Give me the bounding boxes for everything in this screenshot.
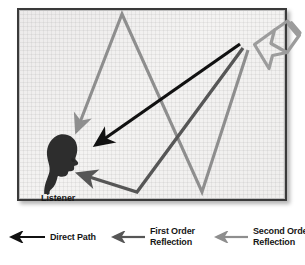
legend-second-order-label-line-1: Second Order — [253, 226, 305, 237]
room-diagram-frame: Listener — [17, 8, 287, 201]
loudspeaker-horn-icon — [247, 18, 305, 74]
legend-second-order-reflection: Second Order Reflection — [211, 226, 305, 247]
legend-first-order-arrow-icon — [108, 231, 146, 243]
first-order-reflection-ray — [80, 48, 243, 192]
legend: Direct Path First Order Reflection — [0, 225, 305, 263]
legend-second-order-label-group: Second Order Reflection — [253, 226, 305, 247]
legend-first-order-label-line-2: Reflection — [150, 237, 195, 248]
legend-first-order-label-line-1: First Order — [150, 226, 195, 237]
legend-first-order-label-group: First Order Reflection — [150, 226, 195, 247]
listener-head-icon — [42, 133, 88, 195]
legend-direct-path: Direct Path — [6, 231, 96, 243]
legend-direct-path-label: Direct Path — [50, 232, 96, 243]
legend-second-order-arrow-icon — [211, 231, 249, 243]
direct-path-ray — [97, 44, 240, 144]
legend-direct-path-arrow-icon — [6, 231, 46, 243]
second-order-reflection-ray — [77, 14, 248, 192]
legend-second-order-label-line-2: Reflection — [253, 237, 305, 248]
legend-first-order-reflection: First Order Reflection — [108, 226, 195, 247]
acoustics-reflection-diagram: Listener Direct Path — [0, 0, 305, 265]
listener-label: Listener — [41, 193, 75, 203]
